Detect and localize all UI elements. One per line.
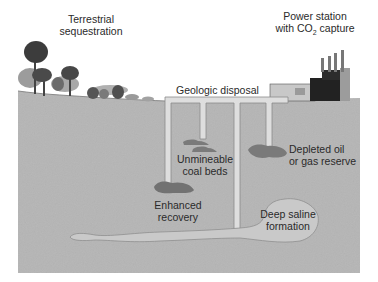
coal-beds-label-line1: Unmineable xyxy=(174,153,236,165)
trees-icon xyxy=(18,41,154,102)
terrestrial-label-line2: sequestration xyxy=(56,25,126,37)
enhanced-label-line2: recovery xyxy=(150,211,206,223)
coal-beds-label: Unmineable coal beds xyxy=(174,153,236,177)
power-station-label-line1: Power station xyxy=(270,10,360,22)
saline-formation-label: Deep saline formation xyxy=(258,208,318,232)
saline-label-line1: Deep saline xyxy=(258,208,318,220)
depleted-label-line1: Depleted oil xyxy=(289,143,356,155)
coal-beds-label-line2: coal beds xyxy=(174,165,236,177)
enhanced-label-line1: Enhanced xyxy=(150,199,206,211)
diagram-canvas xyxy=(0,0,378,282)
depleted-label-line2: or gas reserve xyxy=(289,155,356,167)
power-station-label: Power station with CO2 capture xyxy=(270,10,360,39)
enhanced-recovery-label: Enhanced recovery xyxy=(150,199,206,223)
geologic-disposal-text: Geologic disposal xyxy=(176,84,259,96)
power-station-icon xyxy=(270,50,350,101)
ground-section xyxy=(18,91,360,273)
sequestration-diagram: Terrestrial sequestration Power station … xyxy=(0,0,378,282)
terrestrial-label: Terrestrial sequestration xyxy=(56,13,126,37)
power-label-post: capture xyxy=(317,22,355,34)
power-station-label-line2: with CO2 capture xyxy=(270,22,360,39)
geologic-disposal-label: Geologic disposal xyxy=(176,84,259,96)
power-label-pre: with CO xyxy=(275,22,312,34)
terrestrial-label-line1: Terrestrial xyxy=(56,13,126,25)
saline-label-line2: formation xyxy=(258,220,318,232)
depleted-reserve-label: Depleted oil or gas reserve xyxy=(289,143,356,167)
